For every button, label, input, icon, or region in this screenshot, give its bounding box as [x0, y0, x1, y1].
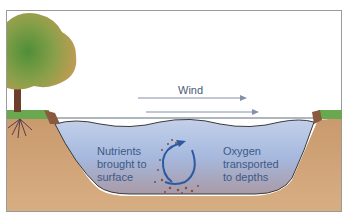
nutrients-line-2: brought to — [97, 158, 147, 171]
oxygen-line-2: transported — [223, 158, 279, 171]
wind-label: Wind — [178, 84, 203, 96]
nutrients-label: Nutrients brought to surface — [97, 145, 147, 184]
oxygen-line-3: to depths — [223, 171, 279, 184]
tree — [7, 13, 76, 112]
oxygen-line-1: Oxygen — [223, 145, 279, 158]
oxygen-label: Oxygen transported to depths — [223, 145, 279, 184]
nutrients-line-1: Nutrients — [97, 145, 147, 158]
nutrients-line-3: surface — [97, 171, 147, 184]
lake-cross-section — [0, 0, 349, 223]
wind-arrows — [138, 95, 259, 115]
